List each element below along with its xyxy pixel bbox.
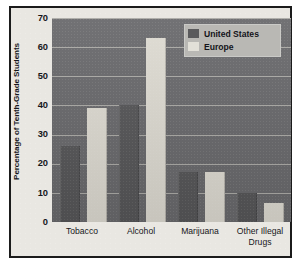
y-tick-label-20: 20 bbox=[18, 158, 48, 168]
legend-label-united-states: United States bbox=[204, 29, 259, 39]
legend-item-united-states: United States bbox=[188, 27, 277, 40]
x-tick-label-other-illegal-drugs-line1: Other Illegal bbox=[229, 226, 291, 237]
x-tick-label-alcohol: Alcohol bbox=[111, 226, 171, 237]
legend-swatch-icon-europe bbox=[188, 42, 199, 51]
y-axis-title: Percentage of Tenth-Grade Students bbox=[12, 10, 21, 214]
bar-united-states-other-illegal-drugs bbox=[237, 193, 257, 222]
x-tick-label-tobacco-line1: Tobacco bbox=[52, 226, 112, 237]
gridline-50 bbox=[52, 76, 291, 77]
y-tick-label-0: 0 bbox=[18, 217, 48, 227]
x-tick-label-other-illegal-drugs: Other Illegal Drugs bbox=[229, 226, 291, 248]
bar-europe-alcohol bbox=[146, 38, 166, 222]
y-tick-label-10: 10 bbox=[18, 188, 48, 198]
y-tick-label-60: 60 bbox=[18, 42, 48, 52]
x-tick-label-alcohol-line1: Alcohol bbox=[111, 226, 171, 237]
chart-screenshot: Percentage of Tenth-Grade Students 70 60… bbox=[0, 0, 300, 269]
x-tick-label-other-illegal-drugs-line2: Drugs bbox=[229, 237, 291, 248]
legend: United States Europe bbox=[184, 24, 281, 57]
bar-europe-tobacco bbox=[87, 108, 107, 222]
bar-united-states-alcohol bbox=[119, 105, 139, 222]
bar-united-states-marijuana bbox=[178, 172, 198, 222]
y-tick-label-30: 30 bbox=[18, 129, 48, 139]
x-tick-label-marijuana: Marijuana bbox=[170, 226, 230, 237]
x-tick-label-marijuana-line1: Marijuana bbox=[170, 226, 230, 237]
legend-label-europe: Europe bbox=[204, 42, 234, 52]
gridline-40 bbox=[52, 105, 291, 106]
legend-item-europe: Europe bbox=[188, 40, 277, 53]
x-tick-label-tobacco: Tobacco bbox=[52, 226, 112, 237]
y-tick-label-70: 70 bbox=[18, 13, 48, 23]
gridline-70 bbox=[52, 18, 291, 19]
legend-swatch-icon-united-states bbox=[188, 29, 199, 38]
bar-europe-other-illegal-drugs bbox=[264, 203, 284, 222]
y-tick-label-40: 40 bbox=[18, 100, 48, 110]
bar-europe-marijuana bbox=[205, 172, 225, 222]
y-tick-label-50: 50 bbox=[18, 71, 48, 81]
bar-united-states-tobacco bbox=[60, 146, 80, 222]
